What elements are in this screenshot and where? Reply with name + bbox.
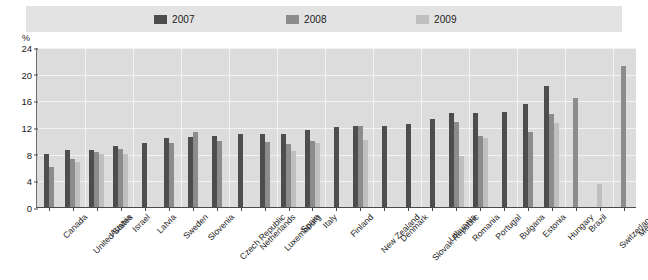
bar[interactable] [406, 124, 411, 207]
bar-group [468, 48, 492, 207]
bar[interactable] [238, 134, 243, 207]
bar[interactable] [99, 154, 104, 207]
plot-area: 04812162024 [36, 48, 636, 208]
x-axis-label: Finland [348, 212, 375, 239]
bar-group [564, 48, 588, 207]
bar[interactable] [621, 66, 626, 207]
bar-group [324, 48, 348, 207]
legend-label: 2008 [304, 14, 327, 25]
x-axis-label: Sweden [181, 212, 210, 241]
x-axis-labels: CanadaUnited StatesAustriaIsraelLatviaSw… [36, 209, 636, 279]
bar[interactable] [193, 132, 198, 207]
bar-group [348, 48, 372, 207]
y-axis-tick-label: 24 [21, 43, 37, 54]
y-axis-tick-label: 20 [21, 69, 37, 80]
bar-group [109, 48, 133, 207]
legend-swatch-icon [416, 15, 429, 24]
x-axis-label: Canada [61, 212, 89, 240]
bar[interactable] [363, 140, 368, 207]
bar-group [229, 48, 253, 207]
bar[interactable] [502, 112, 507, 207]
bar-group [372, 48, 396, 207]
bar[interactable] [75, 162, 80, 207]
bar[interactable] [169, 143, 174, 207]
bar[interactable] [430, 119, 435, 207]
legend-swatch-icon [154, 15, 167, 24]
y-axis-tick-label: 8 [27, 149, 37, 160]
legend-item-2009[interactable]: 2009 [416, 14, 457, 25]
bar[interactable] [573, 98, 578, 207]
bar[interactable] [315, 143, 320, 207]
x-axis-label: Austria [108, 212, 134, 238]
bar-group [61, 48, 85, 207]
bar-group [396, 48, 420, 207]
legend-label: 2009 [434, 14, 457, 25]
legend-swatch-icon [286, 15, 299, 24]
x-axis-label: Slovenia [206, 212, 236, 242]
x-axis-label: Italy [321, 212, 339, 230]
bar-group [540, 48, 564, 207]
bar-group [492, 48, 516, 207]
bar[interactable] [142, 143, 147, 207]
bar[interactable] [483, 138, 488, 207]
bar[interactable] [291, 151, 296, 207]
bar[interactable] [554, 123, 559, 207]
bar[interactable] [382, 126, 387, 207]
chart-root: { "legend": { "position": "top", "items"… [0, 0, 648, 280]
x-axis-label: Israel [130, 212, 152, 234]
bar-group [37, 48, 61, 207]
bar-groups [37, 48, 636, 207]
bar-group [588, 48, 612, 207]
bar[interactable] [217, 141, 222, 207]
bar[interactable] [123, 154, 128, 207]
bar-group [300, 48, 324, 207]
bar-group [444, 48, 468, 207]
bar-group [85, 48, 109, 207]
bar[interactable] [334, 127, 339, 207]
bar-group [133, 48, 157, 207]
bar-group [612, 48, 636, 207]
bar-group [181, 48, 205, 207]
legend-label: 2007 [172, 14, 195, 25]
y-axis-tick-label: 4 [27, 176, 37, 187]
bar[interactable] [265, 142, 270, 207]
legend-item-2007[interactable]: 2007 [154, 14, 195, 25]
x-axis-label: Latvia [155, 212, 178, 235]
bar-group [516, 48, 540, 207]
bar[interactable] [528, 132, 533, 207]
bar[interactable] [49, 167, 54, 207]
bar[interactable] [597, 184, 602, 207]
chart-legend: 2007 2008 2009 [26, 6, 622, 32]
y-axis-tick-label: 12 [21, 123, 37, 134]
bar-group [277, 48, 301, 207]
x-axis-label: Bulgaria [517, 212, 546, 241]
bar-group [253, 48, 277, 207]
bar-group [157, 48, 181, 207]
bar-group [205, 48, 229, 207]
bar[interactable] [459, 156, 464, 207]
x-axis-label: Czech Republic [238, 212, 288, 262]
y-axis-unit-label: % [22, 33, 30, 43]
y-axis-tick-label: 16 [21, 96, 37, 107]
bar-group [420, 48, 444, 207]
legend-item-2008[interactable]: 2008 [286, 14, 327, 25]
